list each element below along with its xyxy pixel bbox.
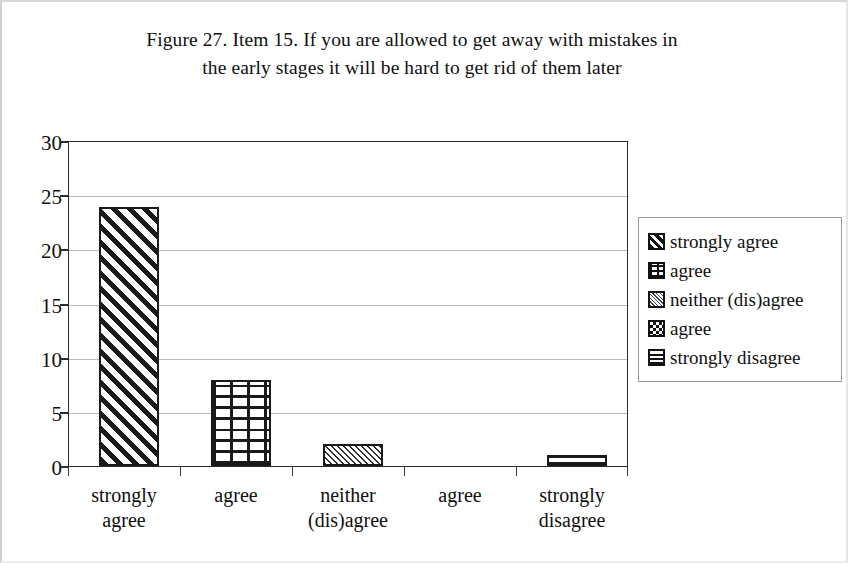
bar-strongly-agree: [99, 207, 159, 466]
legend-item-strongly-agree: strongly agree: [648, 227, 834, 256]
checkerboard-swatch-icon: [648, 320, 665, 337]
x-axis-label-strongly-disagree: strongly disagree: [497, 483, 647, 533]
y-axis-tick-label-5: 5: [18, 404, 62, 425]
y-axis-tick-label-10: 10: [18, 350, 62, 371]
x-axis-tick-mark-4: [516, 467, 517, 476]
x-axis-label-strongly-disagree-line-2: disagree: [497, 508, 647, 533]
legend-label-strongly-disagree: strongly disagree: [670, 347, 800, 368]
x-axis-label-neither-disagree-line-2: (dis)agree: [273, 508, 423, 533]
figure-page: Figure 27. Item 15. If you are allowed t…: [0, 0, 848, 563]
x-axis-tick-mark-2: [292, 467, 293, 476]
x-axis-tick-mark-3: [404, 467, 405, 476]
x-axis-tick-mark-1: [180, 467, 181, 476]
y-axis-tick-label-25: 25: [18, 187, 62, 208]
chart-legend: strongly agree agree neither (dis)agree …: [638, 217, 842, 382]
legend-item-neither-disagree: neither (dis)agree: [648, 285, 834, 314]
bar-neither-disagree: [323, 444, 383, 466]
x-axis-tick-mark-5: [627, 467, 628, 476]
y-axis-tick-mark-30: [60, 141, 68, 143]
plot-area: [68, 141, 628, 467]
figure-title-line-1: Figure 27. Item 15. If you are allowed t…: [62, 26, 762, 54]
x-axis-label-strongly-disagree-line-1: strongly: [497, 483, 647, 508]
y-axis-tick-label-15: 15: [18, 296, 62, 317]
legend-label-agree: agree: [670, 260, 711, 281]
fine-hatch-swatch-icon: [648, 291, 665, 308]
y-axis-tick-mark-15: [60, 304, 68, 306]
y-axis-tick-label-0: 0: [18, 458, 62, 479]
legend-label-neither-disagree: neither (dis)agree: [670, 289, 803, 310]
y-axis-tick-mark-0: [60, 466, 68, 468]
figure-title-line-2: the early stages it will be hard to get …: [62, 54, 762, 82]
bar-agree: [211, 380, 271, 466]
legend-label-agree-2: agree: [670, 318, 711, 339]
x-axis-label-strongly-agree-line-2: agree: [49, 508, 199, 533]
brick-swatch-icon: [648, 262, 665, 279]
bar-strongly-disagree: [547, 455, 607, 466]
legend-item-agree: agree: [648, 256, 834, 285]
y-axis-tick-label-30: 30: [18, 133, 62, 154]
plot-inner: [69, 142, 627, 466]
diagonal-stripes-swatch-icon: [648, 233, 665, 250]
gridline-25: [69, 196, 627, 197]
y-axis-tick-mark-20: [60, 249, 68, 251]
legend-item-strongly-disagree: strongly disagree: [648, 343, 834, 372]
legend-item-agree-2: agree: [648, 314, 834, 343]
legend-label-strongly-agree: strongly agree: [670, 231, 778, 252]
horizontal-lines-swatch-icon: [648, 349, 665, 366]
y-axis-tick-label-20: 20: [18, 241, 62, 262]
y-axis-tick-mark-10: [60, 358, 68, 360]
y-axis-tick-mark-25: [60, 195, 68, 197]
x-axis-tick-mark-0: [68, 467, 69, 476]
figure-title: Figure 27. Item 15. If you are allowed t…: [62, 26, 762, 82]
y-axis-tick-mark-5: [60, 412, 68, 414]
